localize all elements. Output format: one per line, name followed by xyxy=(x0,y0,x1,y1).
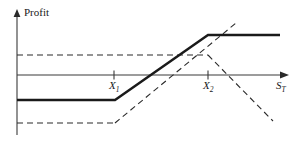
short-call-payoff-line xyxy=(208,55,273,121)
diagram-canvas xyxy=(0,0,300,144)
x-axis-arrowhead xyxy=(280,71,289,78)
profit-payoff-diagram: Profit X1 X2 ST xyxy=(0,0,300,144)
y-axis xyxy=(14,9,21,135)
long-call-payoff-line xyxy=(115,23,236,123)
combined-payoff-line xyxy=(17,35,280,100)
tick-label-x2-main: X xyxy=(203,79,210,91)
tick-label-x2: X2 xyxy=(203,80,213,94)
tick-label-x1-main: X xyxy=(109,79,116,91)
tick-label-x2-sub: 2 xyxy=(210,85,214,94)
y-axis-label: Profit xyxy=(24,7,49,18)
x-axis-label: ST xyxy=(276,80,286,94)
y-axis-arrowhead xyxy=(14,9,21,17)
x-axis-label-sub: T xyxy=(282,85,286,94)
tick-label-x1-sub: 1 xyxy=(116,85,120,94)
tick-label-x1: X1 xyxy=(109,80,119,94)
